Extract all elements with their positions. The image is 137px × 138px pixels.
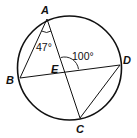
point-label-b: B (6, 74, 14, 86)
point-label-c: C (76, 123, 85, 135)
point-label-d: D (123, 54, 131, 66)
segment-bd (20, 65, 120, 78)
angle-label-bac: 47° (36, 41, 52, 53)
point-label-e: E (51, 63, 59, 75)
circle-geometry-diagram: A B C D E 47° 100° (0, 0, 137, 138)
angle-arc-a (42, 31, 52, 33)
angle-label-aed: 100° (72, 50, 94, 62)
circle (18, 16, 122, 120)
point-label-a: A (40, 4, 49, 16)
